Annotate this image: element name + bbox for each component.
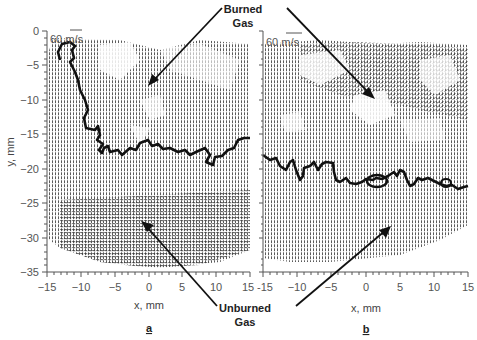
svg-text:−5: −5 [325,281,338,293]
svg-text:−5: −5 [26,59,39,71]
scale-label-a: 60 m/s [50,33,84,45]
svg-text:Unburned: Unburned [219,302,271,314]
svg-text:−10: −10 [72,281,91,293]
y-axis-label: y, mm [4,137,16,166]
scale-label-b: 60 m/s [266,36,300,48]
svg-text:5: 5 [397,281,403,293]
svg-text:5: 5 [179,281,185,293]
x-axis-label-b: x, mm [351,302,381,314]
svg-text:Gas: Gas [235,316,256,328]
svg-text:-15: -15 [257,281,273,293]
svg-text:−10: −10 [288,281,307,293]
panel-a: 0−5 −10−15 −20−25 −30−35 −15−10 −50 510 … [4,25,250,334]
x-axis-label-a: x, mm [134,299,164,311]
panel-b: 15-15 −10−5 05 1015 x, mm b 60 m/s [242,31,474,335]
panel-label-b: b [363,323,370,335]
svg-text:−20: −20 [20,163,39,175]
figure: 0−5 −10−15 −20−25 −30−35 −15−10 −50 510 … [0,0,477,340]
svg-text:−35: −35 [20,266,39,278]
svg-text:−15: −15 [20,128,39,140]
vector-field-a [47,38,250,268]
svg-text:−5: −5 [109,281,122,293]
svg-text:0: 0 [363,281,369,293]
vector-field-b [263,40,468,262]
svg-text:15: 15 [242,281,254,293]
svg-text:0: 0 [146,281,152,293]
svg-text:−25: −25 [20,197,39,209]
svg-text:10: 10 [428,281,440,293]
svg-text:0: 0 [33,25,39,37]
svg-text:Burned: Burned [224,3,263,15]
svg-text:Gas: Gas [233,17,254,29]
svg-text:−30: −30 [20,232,39,244]
svg-text:−10: −10 [20,94,39,106]
svg-text:−15: −15 [38,281,57,293]
panel-label-a: a [146,322,153,334]
svg-text:10: 10 [210,281,222,293]
svg-text:15: 15 [462,281,474,293]
